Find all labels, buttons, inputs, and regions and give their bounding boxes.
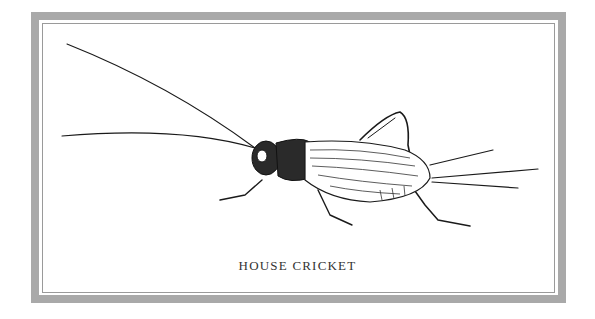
plate-caption: HOUSE CRICKET bbox=[0, 258, 595, 274]
